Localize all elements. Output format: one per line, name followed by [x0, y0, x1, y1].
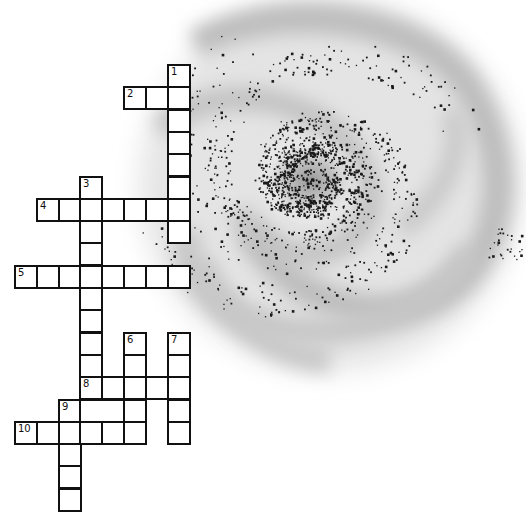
- letter-input[interactable]: [169, 378, 189, 398]
- crossword-cell[interactable]: [123, 421, 147, 445]
- crossword-cell[interactable]: [167, 376, 191, 400]
- crossword-cell[interactable]: [79, 354, 103, 378]
- letter-input[interactable]: [81, 178, 101, 198]
- letter-input[interactable]: [103, 200, 123, 220]
- crossword-cell[interactable]: [79, 220, 103, 244]
- crossword-cell[interactable]: [101, 421, 125, 445]
- crossword-cell[interactable]: [167, 265, 191, 289]
- letter-input[interactable]: [60, 490, 80, 510]
- letter-input[interactable]: [60, 401, 80, 421]
- crossword-cell[interactable]: [167, 109, 191, 133]
- crossword-cell[interactable]: 10: [14, 421, 38, 445]
- letter-input[interactable]: [81, 289, 101, 309]
- crossword-cell[interactable]: [79, 309, 103, 333]
- letter-input[interactable]: [125, 356, 145, 376]
- crossword-cell[interactable]: [79, 399, 125, 423]
- crossword-cell[interactable]: [123, 265, 147, 289]
- crossword-cell[interactable]: 7: [167, 332, 191, 356]
- letter-input[interactable]: [81, 200, 101, 220]
- crossword-cell[interactable]: [167, 86, 191, 110]
- crossword-cell[interactable]: [167, 131, 191, 155]
- letter-input[interactable]: [60, 467, 80, 487]
- crossword-cell[interactable]: [167, 176, 191, 200]
- letter-input[interactable]: [169, 155, 189, 175]
- crossword-cell[interactable]: [79, 198, 103, 222]
- letter-input[interactable]: [169, 423, 189, 443]
- letter-input[interactable]: [125, 88, 145, 108]
- letter-input[interactable]: [169, 334, 189, 354]
- letter-input[interactable]: [60, 200, 80, 220]
- letter-input[interactable]: [60, 423, 80, 443]
- letter-input[interactable]: [81, 244, 101, 264]
- crossword-cell[interactable]: 8: [79, 376, 103, 400]
- letter-input[interactable]: [147, 378, 167, 398]
- crossword-cell[interactable]: [167, 354, 191, 378]
- crossword-cell[interactable]: [101, 376, 125, 400]
- letter-input[interactable]: [60, 445, 80, 465]
- crossword-cell[interactable]: 1: [167, 64, 191, 88]
- crossword-cell[interactable]: [145, 198, 169, 222]
- letter-input[interactable]: [169, 222, 189, 242]
- letter-input[interactable]: [16, 423, 36, 443]
- crossword-cell[interactable]: [145, 86, 169, 110]
- letter-input[interactable]: [169, 66, 189, 86]
- crossword-cell[interactable]: [101, 265, 125, 289]
- crossword-cell[interactable]: [79, 242, 103, 266]
- crossword-cell[interactable]: [101, 198, 125, 222]
- letter-input[interactable]: [169, 111, 189, 131]
- letter-input[interactable]: [38, 200, 58, 220]
- letter-input[interactable]: [125, 200, 145, 220]
- letter-input[interactable]: [81, 423, 101, 443]
- letter-input[interactable]: [81, 311, 101, 331]
- letter-input[interactable]: [169, 200, 189, 220]
- crossword-cell[interactable]: [145, 376, 169, 400]
- crossword-cell[interactable]: [58, 443, 82, 467]
- letter-input[interactable]: [125, 423, 145, 443]
- crossword-cell[interactable]: [167, 220, 191, 244]
- letter-input[interactable]: [147, 88, 167, 108]
- letter-input[interactable]: [125, 378, 145, 398]
- crossword-cell[interactable]: 4: [36, 198, 60, 222]
- letter-input[interactable]: [169, 267, 189, 287]
- crossword-cell[interactable]: 6: [123, 332, 147, 356]
- crossword-cell[interactable]: [123, 399, 147, 423]
- letter-input[interactable]: [125, 267, 145, 287]
- letter-input[interactable]: [169, 401, 189, 421]
- crossword-cell[interactable]: 3: [79, 176, 103, 200]
- crossword-cell[interactable]: 2: [123, 86, 147, 110]
- letter-input[interactable]: [169, 356, 189, 376]
- letter-input[interactable]: [81, 378, 101, 398]
- crossword-cell[interactable]: [36, 421, 60, 445]
- crossword-cell[interactable]: [145, 265, 169, 289]
- crossword-cell[interactable]: [79, 332, 103, 356]
- crossword-cell[interactable]: [36, 265, 60, 289]
- crossword-cell[interactable]: [79, 265, 103, 289]
- crossword-cell[interactable]: [123, 376, 147, 400]
- crossword-cell[interactable]: [123, 354, 147, 378]
- letter-input[interactable]: [103, 267, 123, 287]
- crossword-cell[interactable]: [167, 421, 191, 445]
- letter-input[interactable]: [103, 423, 123, 443]
- crossword-cell[interactable]: [79, 421, 103, 445]
- crossword-cell[interactable]: 5: [14, 265, 38, 289]
- letter-input[interactable]: [81, 222, 101, 242]
- crossword-cell[interactable]: [167, 198, 191, 222]
- letter-input[interactable]: [169, 133, 189, 153]
- crossword-cell[interactable]: [79, 287, 103, 311]
- letter-input[interactable]: [81, 267, 101, 287]
- letter-input[interactable]: [16, 267, 36, 287]
- letter-input[interactable]: [60, 267, 80, 287]
- letter-input[interactable]: [38, 423, 58, 443]
- crossword-cell[interactable]: [167, 153, 191, 177]
- letter-input[interactable]: [103, 378, 123, 398]
- letter-input[interactable]: [147, 267, 167, 287]
- crossword-cell[interactable]: [167, 399, 191, 423]
- letter-input[interactable]: [125, 401, 145, 421]
- letter-input[interactable]: [81, 356, 101, 376]
- letter-input[interactable]: [38, 267, 58, 287]
- letter-input[interactable]: [169, 178, 189, 198]
- letter-input[interactable]: [147, 200, 167, 220]
- letter-input[interactable]: [81, 401, 123, 421]
- letter-input[interactable]: [169, 88, 189, 108]
- letter-input[interactable]: [81, 334, 101, 354]
